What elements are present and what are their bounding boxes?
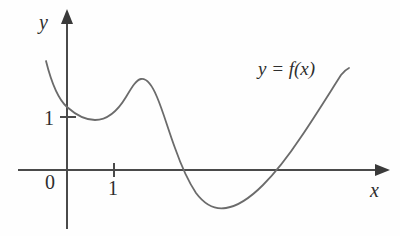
function-graph-figure: y x 0 1 1 y = f(x) xyxy=(0,0,400,236)
x-tick-one-label: 1 xyxy=(108,178,118,198)
y-tick-one-label: 1 xyxy=(44,108,54,128)
x-axis-label: x xyxy=(370,180,379,200)
origin-label: 0 xyxy=(45,172,55,192)
function-curve xyxy=(46,61,349,208)
x-axis-arrow-icon xyxy=(375,164,390,176)
function-curve-label: y = f(x) xyxy=(258,59,315,78)
graph-canvas xyxy=(0,0,400,236)
y-axis-arrow-icon xyxy=(61,9,73,24)
y-axis-label: y xyxy=(39,12,48,32)
